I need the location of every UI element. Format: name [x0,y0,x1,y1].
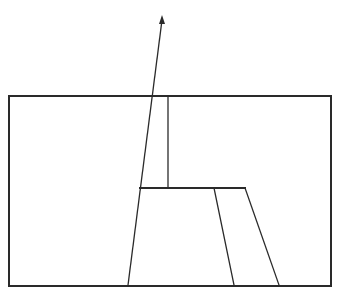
outer-slant [245,188,279,285]
frame-rectangle [9,96,331,286]
line-diagram [0,0,343,300]
arrowhead-icon [159,15,165,24]
diagram-lines [128,20,279,285]
arrow-shaft [128,20,162,285]
inner-slant [214,188,234,285]
diagram-canvas [0,0,343,300]
